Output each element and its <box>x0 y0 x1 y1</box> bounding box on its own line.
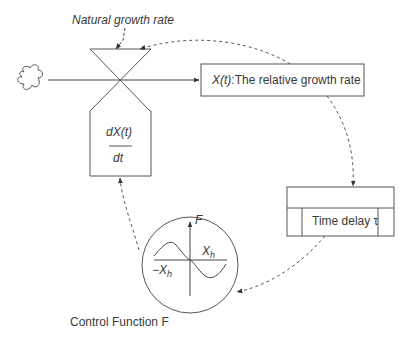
x-h-positive-label: Xh <box>202 244 215 260</box>
feedback-arc-right <box>327 96 353 186</box>
x-h-neg-sub: h <box>167 269 172 279</box>
natural-growth-rate-label: Natural growth rate <box>72 13 174 27</box>
diagram-canvas <box>0 0 409 341</box>
derivative-box <box>90 111 151 176</box>
time-delay-box <box>287 187 394 236</box>
natural-rate-arrow <box>116 28 125 49</box>
time-delay-label: Time delay τ <box>312 214 378 228</box>
x-h-negative-label: −Xh <box>152 263 172 279</box>
derivative-denominator: dt <box>113 151 123 165</box>
feedback-arc-bottom <box>237 236 325 292</box>
x-h-pos-sub: h <box>210 250 215 260</box>
control-function-label: Control Function F <box>70 315 169 329</box>
derivative-numerator: dX(t) <box>106 125 132 139</box>
x-h-pos-main: X <box>202 244 210 258</box>
feedback-arc-left <box>120 178 139 250</box>
cloud-icon <box>18 65 43 90</box>
x-h-neg-main: −X <box>152 263 167 277</box>
relative-growth-rate-label: X(t):The relative growth rate <box>212 73 361 87</box>
relative-growth-rate-text: :The relative growth rate <box>231 73 360 87</box>
feedback-arc-top <box>140 40 290 64</box>
f-axis-label: F <box>195 213 202 227</box>
relative-growth-rate-var: X(t) <box>212 73 231 87</box>
